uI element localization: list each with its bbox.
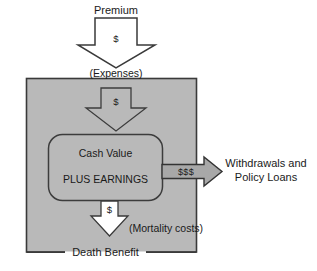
premium-dollar-label: $ bbox=[113, 33, 119, 44]
cash-value-box bbox=[49, 135, 163, 201]
premium-label: Premium bbox=[94, 4, 138, 16]
expenses-label: (Expenses) bbox=[89, 67, 142, 79]
life-insurance-cash-flow-diagram: Premium $ (Expenses) $ Cash Value PLUS E… bbox=[0, 0, 317, 271]
diagram-canvas: Premium $ (Expenses) $ Cash Value PLUS E… bbox=[0, 0, 317, 271]
expenses-dollar-label: $ bbox=[113, 96, 119, 107]
plus-earnings-label: PLUS EARNINGS bbox=[63, 173, 148, 185]
withdrawals-dollars-label: $$$ bbox=[178, 167, 194, 177]
death-benefit-label: Death Benefit bbox=[72, 246, 139, 258]
withdrawals-label-line2: Policy Loans bbox=[235, 171, 298, 183]
mortality-costs-label: (Mortality costs) bbox=[129, 222, 203, 234]
cash-value-label: Cash Value bbox=[79, 147, 133, 159]
mortality-dollar-label: $ bbox=[107, 204, 113, 215]
withdrawals-label-line1: Withdrawals and bbox=[225, 157, 306, 169]
